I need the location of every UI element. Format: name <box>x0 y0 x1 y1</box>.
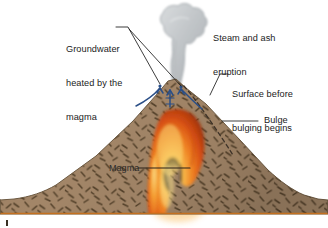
label-magma: Magma <box>109 163 139 174</box>
label-groundwater-line1: Groundwater <box>66 44 122 55</box>
volcano-diagram: Groundwater heated by the magma Steam an… <box>0 0 328 228</box>
label-steam-line1: Steam and ash <box>213 33 275 44</box>
label-groundwater-line2: heated by the <box>66 78 122 89</box>
label-surface-line1: Surface before <box>232 89 293 100</box>
bottom-left-tick-mark <box>6 220 8 226</box>
label-surface-before-bulging: Surface before bulging begins <box>232 67 293 157</box>
label-groundwater-line3: magma <box>66 112 122 123</box>
label-groundwater: Groundwater heated by the magma <box>66 22 122 145</box>
label-bulge: Bulge <box>264 115 288 126</box>
steam-and-ash-plume <box>160 4 207 89</box>
